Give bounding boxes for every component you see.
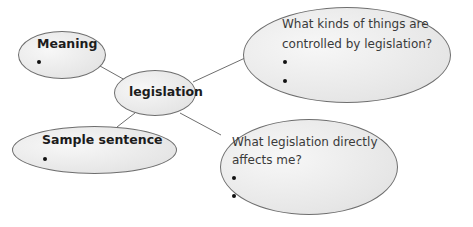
node-affects-me-line-1: What legislation directly [232, 132, 378, 152]
center-label: legislation [129, 84, 203, 99]
bullet [283, 60, 287, 64]
node-controlled-line-1: What kinds of things are [282, 14, 429, 34]
bullet [232, 176, 236, 180]
node-affects-me-line-2: affects me? [232, 150, 302, 170]
node-controlled-line-2: controlled by legislation? [282, 34, 432, 54]
bullet [43, 157, 47, 161]
connector-controlled [193, 58, 245, 82]
bullet [283, 79, 287, 83]
connector-sample-sentence [117, 113, 135, 127]
connector-meaning [100, 66, 125, 80]
node-sample-sentence-label: Sample sentence [42, 132, 163, 147]
connector-affects-me [180, 113, 221, 135]
bullet [37, 60, 41, 64]
bullet [232, 194, 236, 198]
node-meaning-label: Meaning [37, 36, 97, 51]
